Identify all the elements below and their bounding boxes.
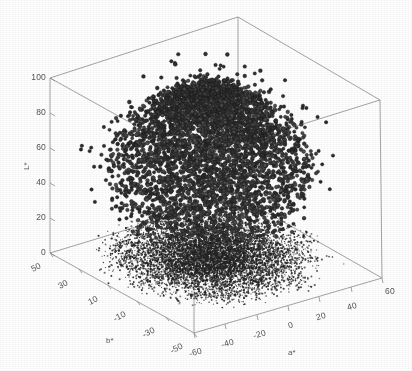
l-tick-label-100: 100 <box>28 72 46 82</box>
figure-canvas: 100 80 60 40 20 0 50 30 10 -10 -30 -50 -… <box>0 0 412 371</box>
l-tick-label-40: 40 <box>28 177 46 187</box>
l-axis-title: L* <box>22 162 31 170</box>
l-tick-label-60: 60 <box>28 142 46 152</box>
scatter-data-layer <box>79 52 344 308</box>
b-axis-title: b* <box>106 336 114 345</box>
a-tick-label-60: 60 <box>385 286 395 296</box>
a-axis-title: a* <box>288 348 296 357</box>
scatter-plot-3d <box>0 0 412 371</box>
l-tick-label-20: 20 <box>28 212 46 222</box>
scatter-points <box>98 73 331 258</box>
l-tick-label-80: 80 <box>28 107 46 117</box>
l-axis-ticks <box>50 78 55 256</box>
l-tick-label-0: 0 <box>28 247 46 257</box>
